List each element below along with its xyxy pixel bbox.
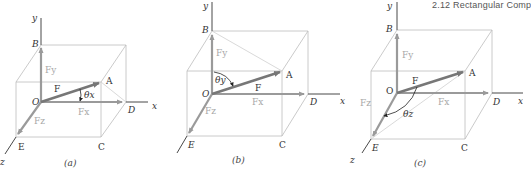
label-a: A bbox=[285, 70, 293, 80]
label-a: A bbox=[105, 76, 113, 86]
label-o: O bbox=[32, 97, 40, 107]
label-f: F bbox=[412, 76, 418, 86]
label-c: C bbox=[98, 142, 105, 152]
label-a: A bbox=[468, 68, 476, 78]
label-e: E bbox=[187, 140, 195, 150]
label-theta-z: θz bbox=[403, 109, 413, 119]
z-axis bbox=[177, 136, 187, 153]
label-fx: Fx bbox=[252, 97, 263, 107]
label-fz: Fz bbox=[360, 98, 371, 108]
caption-b: (b) bbox=[232, 155, 245, 165]
label-c: C bbox=[461, 143, 468, 153]
label-b: B bbox=[31, 39, 39, 49]
caption-c: (c) bbox=[414, 158, 427, 168]
box-outline bbox=[371, 30, 492, 139]
label-z: z bbox=[0, 157, 5, 167]
label-fy: Fy bbox=[402, 50, 414, 60]
label-x: x bbox=[518, 96, 523, 106]
label-fz: Fz bbox=[205, 106, 216, 116]
label-o: O bbox=[386, 86, 393, 96]
label-y: y bbox=[202, 1, 209, 11]
label-y: y bbox=[386, 1, 393, 11]
label-fx: Fx bbox=[78, 107, 89, 117]
label-d: D bbox=[309, 97, 317, 107]
label-f: F bbox=[54, 84, 60, 94]
label-x: x bbox=[152, 101, 157, 111]
caption-a: (a) bbox=[64, 158, 77, 168]
force-vector bbox=[397, 72, 463, 93]
label-y: y bbox=[31, 13, 38, 23]
label-c: C bbox=[279, 140, 286, 150]
label-b: B bbox=[385, 24, 393, 34]
label-e: E bbox=[371, 143, 379, 153]
fz-vector bbox=[373, 93, 397, 136]
panel-c: y B A O D x E C z F Fy Fx Fz θz (c) bbox=[349, 1, 523, 168]
theta-x-arc bbox=[80, 89, 81, 101]
label-fy: Fy bbox=[45, 65, 57, 75]
label-e: E bbox=[18, 142, 25, 152]
label-f: F bbox=[255, 83, 261, 93]
label-fy: Fy bbox=[216, 48, 228, 58]
label-x: x bbox=[340, 96, 345, 106]
label-d: D bbox=[127, 105, 135, 115]
label-b: B bbox=[201, 25, 209, 35]
label-d: D bbox=[492, 97, 500, 107]
z-axis bbox=[5, 137, 16, 154]
panel-a: y B A O D x E C z F Fy Fx Fz θx (a) bbox=[0, 13, 157, 168]
z-axis bbox=[362, 139, 371, 153]
label-theta-x: θx bbox=[84, 90, 95, 100]
label-fz: Fz bbox=[34, 116, 45, 126]
label-fx: Fx bbox=[438, 97, 449, 107]
panel-b: y B A O D x E C F Fy Fx Fz θy (b) bbox=[177, 1, 345, 165]
label-theta-y: θy bbox=[215, 75, 226, 85]
label-z: z bbox=[349, 155, 355, 165]
label-o: O bbox=[202, 89, 210, 99]
